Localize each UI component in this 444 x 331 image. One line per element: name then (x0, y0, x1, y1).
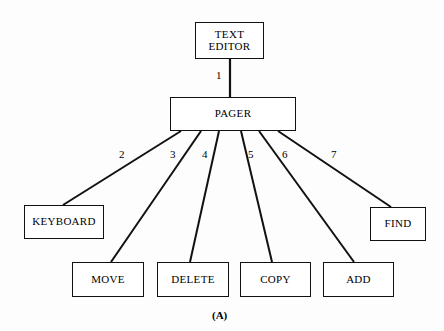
node-pager[interactable]: PAGER (170, 97, 296, 131)
node-find-label: FIND (385, 218, 412, 230)
edge-3-line (111, 131, 201, 262)
node-delete-label: DELETE (171, 274, 214, 286)
edge-2-line (63, 131, 181, 205)
edge-5-number: 5 (248, 148, 254, 160)
edge-5-line (241, 131, 272, 262)
node-add-label: ADD (346, 274, 371, 286)
edge-2-number: 2 (119, 148, 125, 160)
node-text-editor[interactable]: TEXT EDITOR (195, 22, 264, 59)
edge-7-line (278, 131, 391, 207)
node-copy-label: COPY (260, 274, 291, 286)
node-text-editor-label: TEXT EDITOR (209, 29, 251, 53)
figure-caption: (A) (212, 309, 227, 321)
node-copy[interactable]: COPY (240, 262, 311, 297)
node-keyboard[interactable]: KEYBOARD (24, 205, 104, 239)
edge-6-number: 6 (282, 148, 288, 160)
diagram-canvas: TEXT EDITORPAGERKEYBOARDFINDMOVEDELETECO… (0, 0, 444, 331)
node-move[interactable]: MOVE (72, 262, 144, 297)
edge-1-number: 1 (216, 69, 222, 81)
node-pager-label: PAGER (215, 108, 252, 120)
edge-3-number: 3 (170, 148, 176, 160)
node-delete[interactable]: DELETE (157, 262, 229, 297)
edge-7-number: 7 (331, 148, 337, 160)
edge-4-number: 4 (202, 148, 208, 160)
node-keyboard-label: KEYBOARD (32, 216, 96, 228)
node-move-label: MOVE (91, 274, 125, 286)
node-add[interactable]: ADD (323, 262, 394, 297)
node-find[interactable]: FIND (370, 207, 426, 241)
